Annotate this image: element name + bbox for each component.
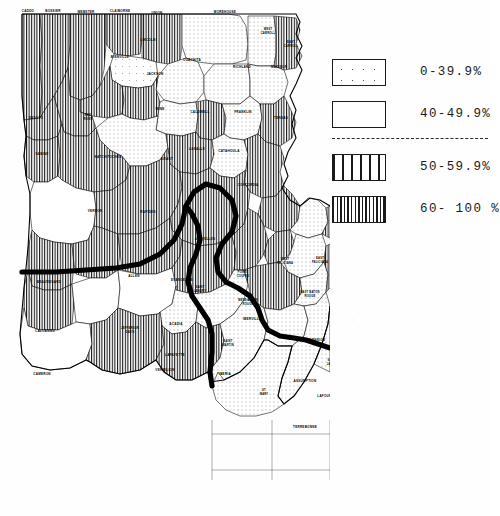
parish-label: CAMERON bbox=[33, 372, 51, 376]
parish-label: SAINTMARTIN bbox=[222, 339, 234, 346]
parish-label: CADDO bbox=[22, 9, 35, 13]
parish-label: WEBSTER bbox=[77, 10, 95, 14]
parish-label: VERNON bbox=[88, 209, 103, 213]
parish-label: UNION bbox=[151, 11, 162, 15]
parish-label: RICHLAND bbox=[233, 65, 252, 69]
parish-label: ACADIA bbox=[169, 322, 183, 326]
parish-label: CATAHOULA bbox=[218, 149, 240, 153]
parish-label: VERMILION bbox=[155, 368, 174, 372]
parish-label: SAINTLANDRY bbox=[194, 285, 206, 292]
legend-row-2: 50-59.9% bbox=[332, 147, 490, 187]
legend-swatch-50-59 bbox=[332, 154, 386, 181]
legend-dashed-divider bbox=[332, 138, 488, 139]
parish-label: TERREBONNE bbox=[293, 425, 317, 429]
parish-label: SABINE bbox=[35, 152, 48, 156]
parish-label: POINTECOUPEE bbox=[237, 270, 250, 277]
parish-label: EVANGELINE bbox=[171, 278, 193, 282]
parish-label: ASCENSION bbox=[305, 338, 325, 342]
parish-label: RAPIDES bbox=[140, 210, 155, 214]
parish-label: MOREHOUSE bbox=[214, 10, 236, 14]
parish-label: CONCORDIA bbox=[237, 183, 259, 187]
parish-label: CLAIBORNE bbox=[110, 9, 130, 13]
parish-label: LAFAYETTE bbox=[165, 353, 185, 357]
legend-label-40-49: 40-49.9% bbox=[420, 107, 491, 121]
parish-label: AVOYELLES bbox=[195, 237, 216, 241]
parish-label: IBERIA bbox=[219, 372, 231, 376]
parish-label: OUACHITA bbox=[183, 58, 201, 62]
parish-label: CALCASIEU bbox=[35, 329, 56, 333]
parish-label: NATCHITOCHES bbox=[94, 155, 121, 159]
map-legend: 0-39.9% 40-49.9% 50-59.9% 60- 100 % bbox=[332, 52, 490, 231]
parish-label: BOSSIER bbox=[45, 9, 61, 13]
map-svg: CADDOBOSSIERWEBSTERCLAIBORNEUNIONMOREHOU… bbox=[0, 0, 330, 516]
parish-label: WINN bbox=[155, 107, 164, 111]
parish-label: BEAUREGARD bbox=[37, 280, 62, 284]
parish-label: MADISON bbox=[271, 65, 287, 69]
parish-label: GRANT bbox=[161, 157, 173, 161]
legend-row-0: 0-39.9% bbox=[332, 52, 490, 92]
legend-swatch-0-39 bbox=[332, 59, 386, 86]
parish-label: LAFOURCHE bbox=[317, 394, 330, 398]
parish-label: JACKSON bbox=[147, 72, 164, 76]
parish-label: TENSAS bbox=[274, 116, 288, 120]
parish-label: LASALLE bbox=[189, 147, 205, 151]
parish-label: IBERVILLE bbox=[243, 317, 261, 321]
parish-label: SAINTJAMES bbox=[327, 358, 330, 365]
parish-label: FRANKLIN bbox=[234, 110, 252, 114]
parish-label: ALLEN bbox=[128, 274, 139, 278]
legend-label-0-39: 0-39.9% bbox=[420, 65, 482, 79]
legend-row-3: 60- 100 % bbox=[332, 189, 490, 229]
parish-label: LINCOLN bbox=[140, 38, 155, 42]
legend-swatch-60-100 bbox=[332, 196, 386, 223]
parish-label: CALDWELL bbox=[190, 110, 209, 114]
graticule bbox=[212, 420, 330, 480]
parish-label: BIENVILLE bbox=[111, 55, 129, 59]
legend-label-60-100: 60- 100 % bbox=[420, 202, 500, 216]
parish-label: DESOTO bbox=[29, 116, 44, 120]
legend-label-50-59: 50-59.9% bbox=[420, 160, 491, 174]
louisiana-choropleth-map: CADDOBOSSIERWEBSTERCLAIBORNEUNIONMOREHOU… bbox=[0, 0, 330, 516]
parish-label: ASSUMPTION bbox=[294, 379, 317, 383]
legend-swatch-40-49 bbox=[332, 101, 386, 128]
legend-row-1: 40-49.9% bbox=[332, 94, 490, 134]
